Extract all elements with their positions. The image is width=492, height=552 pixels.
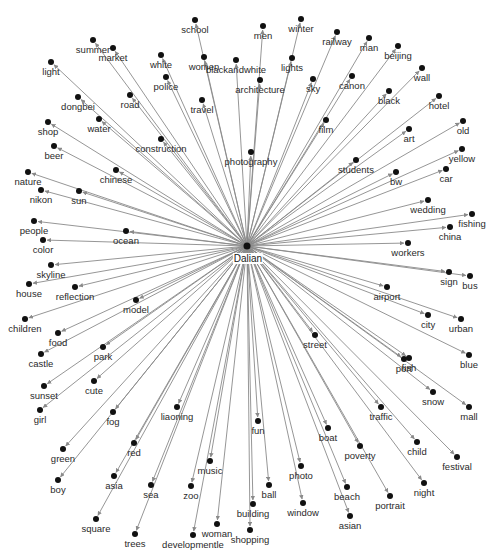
- node-dot-color: [40, 237, 46, 243]
- edge-festival: [247, 246, 454, 454]
- node-label-woman: woman: [202, 528, 233, 539]
- node-dot-ocean: [123, 228, 129, 234]
- edge-boy: [61, 246, 248, 477]
- node-label-reflection: reflection: [56, 291, 95, 302]
- hub-label-dalian: Dalian: [233, 253, 263, 264]
- node-label-fun: fun: [251, 425, 264, 436]
- node-label-photography: photography: [225, 156, 278, 167]
- node-dot-fun: [255, 418, 261, 424]
- node-dot-asian: [347, 513, 353, 519]
- network-diagram: schoolmenwinterrailwaymanbeijingsummerma…: [0, 0, 492, 552]
- node-dot-shop: [45, 119, 51, 125]
- node-dot-traffic: [378, 404, 384, 410]
- node-dot-dongbei: [75, 94, 81, 100]
- node-dot-boat: [325, 425, 331, 431]
- edge-group: [29, 23, 468, 531]
- node-dot-lights: [289, 55, 295, 61]
- node-dot-art: [406, 126, 412, 132]
- node-label-city: city: [421, 319, 435, 330]
- node-label-wall: wall: [414, 72, 430, 83]
- node-label-traffic: traffic: [369, 411, 392, 422]
- node-label-art: art: [403, 133, 414, 144]
- node-dot-men: [260, 23, 266, 29]
- edge-square: [98, 246, 247, 516]
- node-label-old: old: [457, 125, 470, 136]
- node-dot-film: [323, 117, 329, 123]
- node-label-market: market: [98, 52, 127, 63]
- node-label-mall: mall: [460, 411, 477, 422]
- node-dot-wall: [419, 65, 425, 71]
- node-label-festival: festival: [442, 461, 472, 472]
- node-dot-travel: [199, 97, 205, 103]
- node-dot-model: [133, 297, 139, 303]
- node-label-girl: girl: [34, 414, 47, 425]
- node-dot-school: [192, 17, 198, 23]
- node-label-men: men: [254, 30, 272, 41]
- node-label-night: night: [414, 487, 435, 498]
- node-dot-portrait: [387, 493, 393, 499]
- node-label-developmentle: developmentle: [162, 539, 224, 550]
- node-label-street: street: [303, 339, 327, 350]
- node-label-music: music: [198, 465, 223, 476]
- node-dot-beijing: [395, 43, 401, 49]
- node-label-airport: airport: [374, 291, 401, 302]
- node-dot-red: [131, 440, 137, 446]
- node-dot-nature: [25, 169, 31, 175]
- node-label-wedding: wedding: [410, 204, 445, 215]
- node-dot-old: [460, 118, 466, 124]
- node-dot-cute: [91, 378, 97, 384]
- node-label-building: building: [237, 508, 270, 519]
- edge-ball: [247, 246, 269, 481]
- node-dot-bus: [467, 273, 473, 279]
- node-dot-sun: [76, 188, 82, 194]
- node-label-road: road: [120, 99, 139, 110]
- node-dot-china: [447, 224, 453, 230]
- node-label-sky: sky: [306, 83, 320, 94]
- node-dot-airport: [384, 284, 390, 290]
- node-label-police: police: [154, 81, 179, 92]
- node-dot-workers: [405, 240, 411, 246]
- node-label-poverty: poverty: [344, 450, 375, 461]
- node-label-red: red: [127, 447, 141, 458]
- node-label-asian: asian: [339, 520, 362, 531]
- node-dot-shopping: [247, 527, 253, 533]
- node-label-canon: canon: [339, 80, 365, 91]
- node-label-green: green: [51, 453, 75, 464]
- node-dot-black: [386, 88, 392, 94]
- edge-sun: [83, 192, 247, 246]
- node-label-sign: sign: [440, 276, 457, 287]
- node-dot-food: [55, 330, 61, 336]
- node-label-trees: trees: [124, 538, 145, 549]
- node-dot-people: [31, 218, 37, 224]
- node-label-white: white: [150, 59, 172, 70]
- node-dot-zoo: [188, 483, 194, 489]
- node-dot-women: [201, 54, 207, 60]
- node-dot-light: [48, 59, 54, 65]
- node-label-sunset: sunset: [30, 390, 58, 401]
- node-label-blue: blue: [460, 359, 478, 370]
- node-dot-blackandwhite: [233, 57, 239, 63]
- node-dot-architecture: [257, 77, 263, 83]
- node-label-window: window: [287, 507, 319, 518]
- node-dot-sky: [310, 76, 316, 82]
- node-label-food: food: [49, 337, 68, 348]
- node-label-shop: shop: [38, 126, 59, 137]
- node-label-beach: beach: [334, 491, 360, 502]
- node-dot-photo: [298, 463, 304, 469]
- node-label-blackandwhite: blackandwhite: [206, 64, 266, 75]
- node-dot-square: [93, 516, 99, 522]
- node-label-house: house: [16, 288, 42, 299]
- node-dot-boy: [55, 477, 61, 483]
- node-label-bus: bus: [462, 280, 477, 291]
- node-dot-window: [300, 500, 306, 506]
- node-dot-beer: [51, 143, 57, 149]
- edge-color: [47, 240, 247, 246]
- node-dot-asia: [111, 473, 117, 479]
- node-dot-water: [96, 116, 102, 122]
- node-dot-sign: [446, 269, 452, 275]
- node-label-skyline: skyline: [36, 269, 65, 280]
- node-dot-summer: [90, 37, 96, 43]
- edge-building: [247, 246, 253, 500]
- node-dot-snow: [430, 389, 436, 395]
- node-dot-green: [60, 446, 66, 452]
